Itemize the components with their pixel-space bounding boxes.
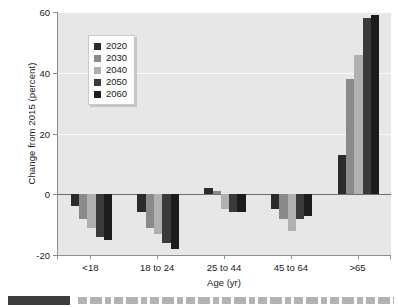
x-tick-mark	[358, 255, 359, 259]
caption-tag	[8, 296, 70, 305]
y-tick-label: 40	[0, 67, 50, 78]
bar	[354, 55, 362, 195]
bar	[279, 194, 287, 218]
x-tick-label: 25 to 44	[207, 262, 241, 273]
y-tick-label: 0	[0, 189, 50, 200]
y-tick-mark	[53, 12, 57, 13]
bar	[288, 194, 296, 230]
legend-swatch-icon	[94, 91, 101, 98]
y-tick-label: 60	[0, 7, 50, 18]
legend-item-label: 2040	[106, 65, 127, 75]
bar	[96, 194, 104, 237]
legend-swatch-icon	[94, 55, 101, 62]
bar	[271, 194, 279, 209]
legend-item-label: 2020	[106, 41, 127, 51]
x-tick-label: <18	[82, 262, 98, 273]
x-axis-end-tick	[390, 255, 391, 259]
legend-item: 2040	[94, 64, 127, 76]
bar	[146, 194, 154, 227]
bar	[79, 194, 87, 218]
y-tick-label: -20	[0, 250, 50, 261]
x-tick-mark	[157, 255, 158, 259]
legend-item: 2020	[94, 40, 127, 52]
figure-caption-strip	[0, 295, 398, 307]
bar	[221, 194, 229, 209]
bar	[162, 194, 170, 243]
bar	[104, 194, 112, 240]
bar	[229, 194, 237, 212]
caption-text-lines	[78, 297, 394, 304]
bar	[87, 194, 95, 227]
bar	[346, 79, 354, 194]
x-tick-mark	[224, 255, 225, 259]
y-tick-mark	[53, 134, 57, 135]
bar	[137, 194, 145, 212]
x-tick-mark	[90, 255, 91, 259]
y-tick-mark	[53, 194, 57, 195]
bar	[371, 15, 379, 194]
legend-item: 2060	[94, 88, 127, 100]
bar-group	[338, 12, 379, 255]
legend-item-label: 2060	[106, 89, 127, 99]
y-axis-title: Change from 2015 (percent)	[26, 9, 37, 239]
x-tick-label: 18 to 24	[140, 262, 174, 273]
bar	[363, 18, 371, 194]
bar-group	[271, 12, 312, 255]
bar-group	[137, 12, 178, 255]
x-tick-label: >65	[350, 262, 366, 273]
bar	[304, 194, 312, 215]
x-axis-title: Age (yr)	[57, 277, 391, 288]
legend-item: 2030	[94, 52, 127, 64]
figure-container: Change from 2015 (percent) -200204060 <1…	[0, 0, 398, 307]
x-axis-end-tick	[57, 255, 58, 259]
legend-swatch-icon	[94, 67, 101, 74]
bar	[154, 194, 162, 233]
bar	[338, 155, 346, 194]
y-tick-label: 20	[0, 128, 50, 139]
bar	[171, 194, 179, 249]
legend-item: 2050	[94, 76, 127, 88]
x-tick-mark	[291, 255, 292, 259]
y-tick-mark	[53, 73, 57, 74]
bar	[296, 194, 304, 218]
legend-item-label: 2050	[106, 77, 127, 87]
legend-item-label: 2030	[106, 53, 127, 63]
x-tick-label: 45 to 64	[274, 262, 308, 273]
bar	[204, 188, 212, 194]
bar	[71, 194, 79, 206]
chart-legend: 20202030204020502060	[88, 35, 135, 105]
bar	[237, 194, 245, 212]
bar	[213, 191, 221, 194]
legend-swatch-icon	[94, 79, 101, 86]
legend-swatch-icon	[94, 43, 101, 50]
bar-group	[204, 12, 245, 255]
